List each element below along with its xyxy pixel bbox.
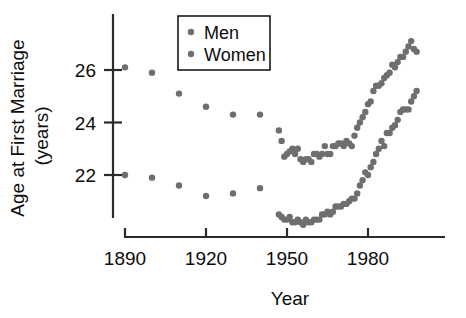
legend-marker-men <box>188 29 194 35</box>
data-point <box>149 174 155 180</box>
data-point <box>370 159 376 165</box>
data-point <box>308 159 314 165</box>
y-tick-label-26: 26 <box>75 60 96 81</box>
legend-label-men: Men <box>204 23 239 43</box>
data-point <box>413 48 419 54</box>
x-axis-title: Year <box>271 288 310 309</box>
y-tick-label-22: 22 <box>75 165 96 186</box>
legend-marker-women <box>188 51 194 57</box>
data-point <box>257 111 263 117</box>
x-tick-label-1950: 1950 <box>266 248 308 269</box>
scatter-plot: 2224261890192019501980YearAge at First M… <box>0 0 466 318</box>
chart-figure: 2224261890192019501980YearAge at First M… <box>0 0 466 318</box>
data-point <box>386 69 392 75</box>
data-point <box>149 69 155 75</box>
data-point <box>405 106 411 112</box>
data-point <box>278 138 284 144</box>
data-point <box>354 190 360 196</box>
data-point <box>351 132 357 138</box>
data-point <box>122 64 128 70</box>
data-point <box>230 111 236 117</box>
data-point <box>203 193 209 199</box>
data-point <box>408 38 414 44</box>
data-point <box>362 109 368 115</box>
data-point <box>327 151 333 157</box>
x-tick-label-1980: 1980 <box>347 248 389 269</box>
data-point <box>413 88 419 94</box>
y-axis-title-line2: (years) <box>31 106 52 165</box>
data-point <box>230 190 236 196</box>
y-tick-label-24: 24 <box>75 113 97 134</box>
data-point <box>381 143 387 149</box>
data-point <box>349 143 355 149</box>
data-point <box>176 90 182 96</box>
x-tick-label-1920: 1920 <box>185 248 227 269</box>
data-point <box>203 104 209 110</box>
legend-label-women: Women <box>204 45 266 65</box>
data-point <box>276 127 282 133</box>
data-point <box>322 143 328 149</box>
data-point <box>176 182 182 188</box>
y-axis-title-line1: Age at First Marriage <box>7 39 28 216</box>
data-point <box>365 172 371 178</box>
chart-legend: MenWomen <box>178 16 270 70</box>
data-point <box>295 146 301 152</box>
series-women <box>122 88 420 228</box>
data-point <box>359 177 365 183</box>
data-point <box>395 117 401 123</box>
data-point <box>122 172 128 178</box>
x-tick-label-1890: 1890 <box>104 248 146 269</box>
data-point <box>257 185 263 191</box>
axis-labels: 2224261890192019501980YearAge at First M… <box>7 39 389 309</box>
data-point <box>368 98 374 104</box>
